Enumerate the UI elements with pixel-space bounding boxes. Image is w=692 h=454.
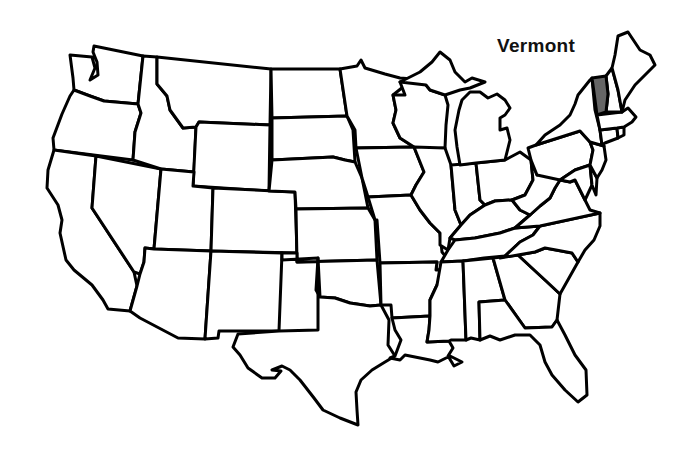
state-south-dakota: [272, 116, 355, 162]
state-wyoming: [193, 122, 270, 191]
state-montana: [157, 57, 271, 128]
us-states-map: [0, 0, 692, 454]
highlighted-state-label: Vermont: [497, 35, 575, 57]
state-north-dakota: [271, 69, 347, 118]
map-canvas: Vermont: [0, 0, 692, 454]
state-colorado: [211, 188, 297, 253]
state-new-mexico: [205, 251, 282, 339]
state-maine: [612, 32, 655, 112]
state-kansas: [296, 208, 377, 262]
